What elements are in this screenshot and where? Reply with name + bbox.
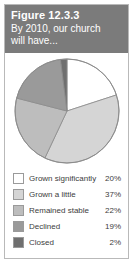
- legend-row: Declined 19%: [13, 219, 121, 234]
- pie-chart-svg: [12, 56, 122, 166]
- figure-subtitle: By 2010, our church will have...: [11, 22, 122, 46]
- pie-chart: [12, 56, 122, 166]
- legend-value: 37%: [104, 190, 121, 199]
- figure-card: Figure 12.3.3 By 2010, our church will h…: [4, 4, 129, 259]
- legend-swatch-grown-a-little: [13, 189, 24, 200]
- legend-swatch-remained-stable: [13, 205, 24, 216]
- figure-header: Figure 12.3.3 By 2010, our church will h…: [5, 5, 128, 53]
- legend-row: Grown a little 37%: [13, 187, 121, 202]
- legend: Grown significantly 20% Grown a little 3…: [5, 171, 128, 250]
- legend-row: Grown significantly 20%: [13, 171, 121, 186]
- chart-area: [5, 53, 128, 171]
- legend-label: Grown a little: [24, 190, 104, 199]
- legend-row: Remained stable 22%: [13, 203, 121, 218]
- figure-number: Figure 12.3.3: [11, 9, 122, 22]
- legend-swatch-grown-significantly: [13, 173, 24, 184]
- pie-slice-group: [14, 59, 118, 163]
- legend-value: 19%: [104, 222, 121, 231]
- legend-value: 20%: [104, 174, 121, 183]
- legend-value: 2%: [104, 238, 121, 247]
- legend-label: Declined: [24, 222, 104, 231]
- legend-label: Remained stable: [24, 206, 104, 215]
- legend-row: Closed 2%: [13, 235, 121, 250]
- legend-label: Grown significantly: [24, 174, 104, 183]
- legend-value: 22%: [104, 206, 121, 215]
- legend-label: Closed: [24, 238, 104, 247]
- legend-swatch-closed: [13, 237, 24, 248]
- legend-swatch-declined: [13, 221, 24, 232]
- figure-subtitle-line-1: By 2010, our church: [11, 23, 122, 35]
- figure-subtitle-line-2: will have...: [11, 35, 122, 47]
